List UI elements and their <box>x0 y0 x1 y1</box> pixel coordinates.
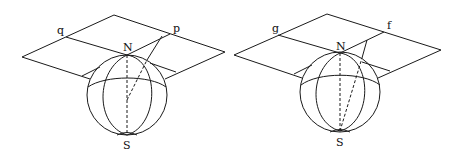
left-diagram: q p N S <box>22 15 225 152</box>
right-label-f: f <box>387 19 392 32</box>
right-label-N: N <box>336 40 346 53</box>
right-label-g: g <box>272 22 279 35</box>
right-label-S: S <box>336 136 344 149</box>
left-label-q: q <box>57 24 64 37</box>
left-label-N: N <box>123 41 133 54</box>
right-sphere <box>300 40 380 132</box>
right-diagram: g f N S <box>234 14 441 149</box>
left-label-S: S <box>123 139 131 152</box>
left-label-p: p <box>173 22 180 35</box>
figure: q p N S g f N S <box>0 0 458 157</box>
